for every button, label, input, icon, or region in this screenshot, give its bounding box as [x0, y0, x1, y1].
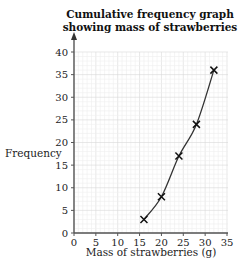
x-tick-label: 0: [71, 237, 77, 248]
y-tick-label: 40: [55, 47, 68, 58]
y-tick-label: 5: [62, 205, 68, 216]
x-tick-label: 35: [221, 237, 234, 248]
y-tick-label: 15: [55, 160, 68, 171]
y-tick-label: 35: [55, 69, 68, 80]
plot-area: 051015202530350510152025303540: [0, 0, 240, 260]
y-tick-label: 25: [55, 114, 68, 125]
y-tick-label: 0: [62, 228, 68, 239]
x-tick-label: 30: [199, 237, 212, 248]
y-axis-arrow-icon: [71, 32, 77, 40]
y-tick-label: 20: [55, 137, 68, 148]
y-tick-label: 30: [55, 92, 68, 103]
x-tick-label: 15: [133, 237, 146, 248]
y-tick-label: 10: [55, 182, 68, 193]
x-tick-label: 20: [155, 237, 168, 248]
x-tick-label: 25: [177, 237, 190, 248]
x-tick-label: 5: [93, 237, 99, 248]
x-tick-label: 10: [111, 237, 124, 248]
